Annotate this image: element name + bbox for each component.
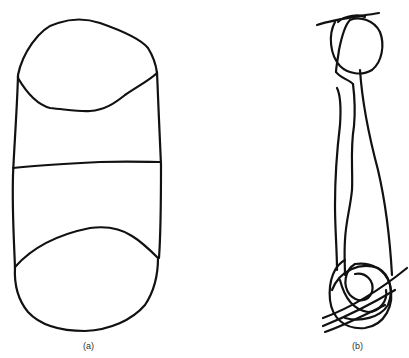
panel-a-drawing <box>13 20 161 331</box>
panel-b-drawing <box>317 13 407 332</box>
caption-a: (a) <box>83 341 94 351</box>
caption-b: (b) <box>352 341 363 351</box>
figure-drawing <box>0 0 409 358</box>
